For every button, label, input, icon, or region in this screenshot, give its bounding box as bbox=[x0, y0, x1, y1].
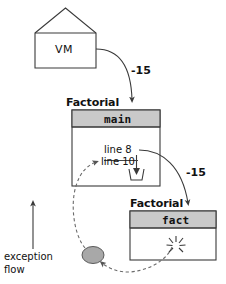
exception-object bbox=[82, 247, 104, 264]
edge-vm-to-main-label: -15 bbox=[131, 65, 151, 76]
edge-vm-to-main bbox=[96, 49, 132, 100]
legend-line-1: exception bbox=[4, 252, 53, 262]
vm-label: VM bbox=[55, 44, 73, 55]
frame-main-line-8: line 8 bbox=[104, 145, 132, 155]
legend-line-2: flow bbox=[4, 265, 25, 275]
frame-fact-method-label: fact bbox=[162, 215, 189, 226]
frame-main-line-10: line 10 bbox=[101, 157, 135, 167]
frame-main-class-label: Factorial bbox=[66, 97, 119, 108]
exception-flow-diagram: VM Factorial main line 8 line 10 Factori… bbox=[0, 0, 226, 284]
frame-fact-class-label: Factorial bbox=[130, 198, 183, 209]
frame-main-method-label: main bbox=[104, 114, 131, 125]
vm-node bbox=[35, 8, 96, 68]
diagram-canvas bbox=[0, 0, 226, 284]
edge-main-to-fact-label: -15 bbox=[186, 167, 206, 178]
